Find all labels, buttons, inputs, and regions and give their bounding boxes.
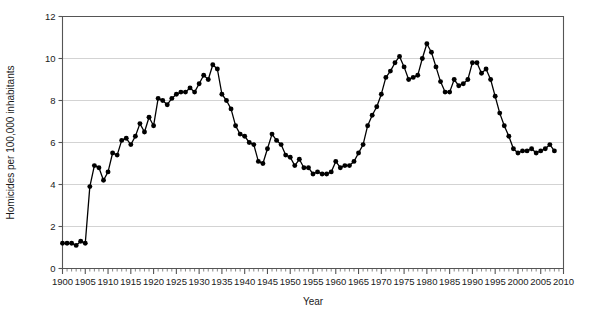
x-tick-label-1915: 1915: [120, 276, 141, 287]
data-point: [260, 161, 265, 166]
data-point: [406, 77, 411, 82]
data-point: [201, 73, 206, 78]
data-point: [142, 130, 147, 135]
data-point: [87, 184, 92, 189]
data-point: [493, 94, 498, 99]
data-point: [434, 64, 439, 69]
data-point: [160, 98, 165, 103]
data-point: [242, 134, 247, 139]
y-tick-label-12: 12: [45, 11, 56, 22]
data-point: [520, 148, 525, 153]
data-point: [552, 148, 557, 153]
x-tick-label-1980: 1980: [416, 276, 437, 287]
data-point: [383, 75, 388, 80]
y-tick-label-0: 0: [50, 263, 55, 274]
data-point: [543, 146, 548, 151]
data-point: [324, 172, 329, 177]
data-point: [388, 69, 393, 74]
data-point: [465, 77, 470, 82]
data-point: [370, 113, 375, 118]
data-point: [529, 146, 534, 151]
data-point: [115, 153, 120, 158]
data-point: [538, 148, 543, 153]
x-axis-title: Year: [303, 296, 324, 307]
data-point: [342, 163, 347, 168]
data-point: [156, 96, 161, 101]
data-point: [297, 157, 302, 162]
x-tick-label-1945: 1945: [257, 276, 278, 287]
data-point: [215, 67, 220, 72]
data-point: [219, 92, 224, 97]
data-point: [83, 241, 88, 246]
data-point: [534, 151, 539, 156]
data-point: [347, 163, 352, 168]
data-point: [415, 73, 420, 78]
x-tick-label-1900: 1900: [52, 276, 73, 287]
data-point: [169, 96, 174, 101]
chart-figure: 0246810121900190519101915192019251930193…: [0, 0, 592, 321]
data-point: [497, 111, 502, 116]
data-point: [352, 159, 357, 164]
data-point: [128, 142, 133, 147]
x-tick-label-1940: 1940: [234, 276, 255, 287]
x-tick-label-1955: 1955: [302, 276, 323, 287]
y-tick-label-8: 8: [50, 95, 55, 106]
x-tick-label-1920: 1920: [143, 276, 164, 287]
data-point: [361, 142, 366, 147]
data-point: [110, 151, 115, 156]
x-tick-label-1960: 1960: [325, 276, 346, 287]
x-tick-label-2010: 2010: [553, 276, 574, 287]
data-point: [438, 79, 443, 84]
data-point: [374, 104, 379, 109]
data-point: [210, 62, 215, 67]
data-point: [447, 90, 452, 95]
data-point: [188, 85, 193, 90]
x-tick-label-1930: 1930: [189, 276, 210, 287]
data-point: [206, 77, 211, 82]
data-point: [69, 241, 74, 246]
data-point: [475, 60, 480, 65]
data-point: [311, 172, 316, 177]
data-point: [283, 153, 288, 158]
data-point: [429, 50, 434, 55]
y-tick-label-6: 6: [50, 137, 55, 148]
data-point: [251, 142, 256, 147]
data-point: [65, 241, 70, 246]
data-point: [233, 123, 238, 128]
data-point: [279, 142, 284, 147]
data-point: [270, 132, 275, 137]
data-point: [379, 92, 384, 97]
y-axis-title: Homicides per 100,000 inhabitants: [5, 66, 16, 220]
x-tick-label-1970: 1970: [371, 276, 392, 287]
data-point: [119, 138, 124, 143]
data-point: [174, 92, 179, 97]
x-tick-label-1995: 1995: [485, 276, 506, 287]
data-point: [292, 163, 297, 168]
x-tick-label-1985: 1985: [439, 276, 460, 287]
data-point: [397, 54, 402, 59]
data-point: [147, 115, 152, 120]
data-point: [288, 155, 293, 160]
data-point: [106, 169, 111, 174]
data-point: [256, 159, 261, 164]
data-point: [516, 151, 521, 156]
data-point: [356, 151, 361, 156]
data-point: [547, 142, 552, 147]
data-point: [452, 77, 457, 82]
data-point: [306, 165, 311, 170]
x-tick-label-1990: 1990: [462, 276, 483, 287]
data-point: [301, 165, 306, 170]
data-point: [443, 90, 448, 95]
data-point: [74, 243, 79, 248]
x-tick-label-1965: 1965: [348, 276, 369, 287]
x-tick-label-1905: 1905: [75, 276, 96, 287]
data-point: [470, 60, 475, 65]
data-point: [133, 134, 138, 139]
data-point: [461, 81, 466, 86]
data-point: [393, 60, 398, 65]
data-point: [320, 172, 325, 177]
data-point: [60, 241, 65, 246]
data-point: [78, 239, 83, 244]
data-point: [124, 136, 129, 141]
data-point: [137, 121, 142, 126]
